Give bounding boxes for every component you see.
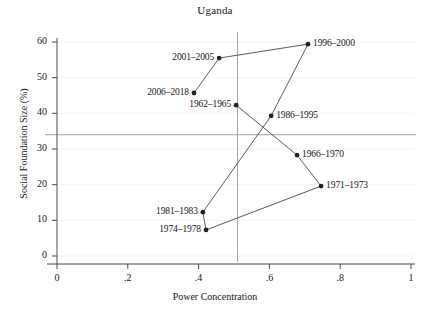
data-point-label: 1974–1978 bbox=[121, 224, 201, 234]
y-tick-label: 0 bbox=[23, 249, 47, 260]
data-point-marker bbox=[295, 153, 300, 158]
data-point-label: 1971–1973 bbox=[326, 180, 406, 190]
data-point-label: 1986–1995 bbox=[276, 110, 356, 120]
x-tick-label: .8 bbox=[328, 272, 352, 283]
data-point-label: 2001–2005 bbox=[134, 52, 214, 62]
chart-figure: Uganda Social Foundation Size (%) Power … bbox=[0, 0, 430, 311]
x-tick-label: .2 bbox=[116, 272, 140, 283]
data-point-marker bbox=[234, 103, 239, 108]
data-point-label: 1981–1983 bbox=[118, 206, 198, 216]
data-point-label: 1996–2000 bbox=[313, 38, 393, 48]
series-path bbox=[194, 44, 321, 230]
y-tick-label: 20 bbox=[23, 178, 47, 189]
data-point-label: 1962–1965 bbox=[151, 99, 231, 109]
data-point-label: 1966–1970 bbox=[302, 149, 382, 159]
data-point-marker bbox=[200, 210, 205, 215]
data-point-marker bbox=[204, 228, 209, 233]
data-point-marker bbox=[306, 42, 311, 47]
x-tick-label: .4 bbox=[187, 272, 211, 283]
data-point-marker bbox=[319, 184, 324, 189]
y-tick-label: 30 bbox=[23, 142, 47, 153]
x-tick-label: 1 bbox=[399, 272, 423, 283]
data-point-marker bbox=[217, 56, 222, 61]
x-tick-label: .6 bbox=[257, 272, 281, 283]
y-tick-label: 40 bbox=[23, 106, 47, 117]
y-tick-label: 10 bbox=[23, 213, 47, 224]
data-point-marker bbox=[269, 113, 274, 118]
y-tick-label: 60 bbox=[23, 35, 47, 46]
x-tick-label: 0 bbox=[45, 272, 69, 283]
data-point-label: 2006–2018 bbox=[109, 87, 189, 97]
data-point-marker bbox=[192, 91, 197, 96]
y-tick-label: 50 bbox=[23, 71, 47, 82]
